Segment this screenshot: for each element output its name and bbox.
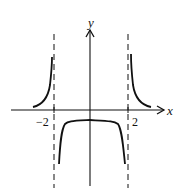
curve-middle-branch — [59, 120, 125, 164]
function-graph: y x −2 2 — [0, 0, 185, 194]
curve-left-branch — [33, 57, 52, 107]
tick-label-2: 2 — [132, 115, 138, 129]
x-axis-label: x — [166, 103, 173, 118]
y-axis-label: y — [86, 15, 94, 30]
tick-label-neg2: −2 — [36, 115, 49, 129]
curve-right-branch — [131, 54, 151, 107]
